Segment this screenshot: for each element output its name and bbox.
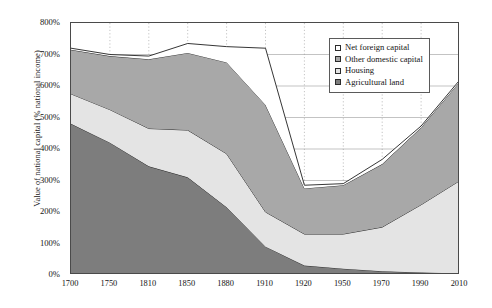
- legend-swatch-icon: [335, 45, 341, 51]
- legend-item[interactable]: Net foreign capital: [335, 42, 423, 54]
- legend-label: Net foreign capital: [345, 42, 409, 54]
- x-tick-label: 1920: [295, 279, 312, 288]
- legend-swatch-icon: [335, 79, 341, 85]
- x-tick-label: 1990: [412, 279, 429, 288]
- x-tick-label: 1950: [334, 279, 351, 288]
- x-tick-label: 1910: [256, 279, 273, 288]
- x-tick-label: 1750: [101, 279, 118, 288]
- x-tick-label: 1810: [139, 279, 156, 288]
- legend-label: Agricultural land: [345, 77, 404, 89]
- x-tick-label: 1700: [62, 279, 79, 288]
- x-tick-label: 1850: [178, 279, 195, 288]
- x-tick-label: 1970: [373, 279, 390, 288]
- x-tick-label: 2010: [451, 279, 468, 288]
- legend-item[interactable]: Agricultural land: [335, 77, 423, 89]
- legend-swatch-icon: [335, 56, 341, 62]
- chart-legend: Net foreign capitalOther domestic capita…: [329, 38, 430, 93]
- legend-item[interactable]: Other domestic capital: [335, 54, 423, 66]
- x-tick-label: 1880: [217, 279, 234, 288]
- legend-label: Housing: [345, 65, 374, 77]
- legend-swatch-icon: [335, 68, 341, 74]
- chart-figure: Value of national capital (% national in…: [0, 0, 492, 308]
- legend-item[interactable]: Housing: [335, 65, 423, 77]
- legend-label: Other domestic capital: [345, 54, 423, 66]
